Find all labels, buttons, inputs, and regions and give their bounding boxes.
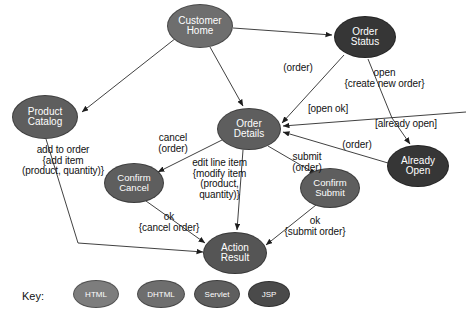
node-label: ConfirmSubmit [313, 178, 346, 197]
node-label-line2: Home [178, 26, 221, 36]
key-jsp[interactable]: JSP [248, 281, 290, 307]
key-servlet[interactable]: Servlet [194, 280, 240, 308]
node-product-catalog[interactable]: ProductCatalog [12, 95, 78, 139]
key-item-label: HTML [85, 290, 107, 299]
node-order-status[interactable]: OrderStatus [334, 16, 396, 58]
node-label-line2: Status [351, 37, 379, 47]
label-open-create: open {create new order} [322, 68, 447, 89]
node-label: CustomerHome [178, 16, 221, 36]
label-submit-order: submit (order) [278, 152, 336, 173]
node-label-line2: Open [401, 166, 435, 176]
node-label-line2: Submit [313, 188, 346, 198]
label-open-ok: [open ok] [293, 104, 363, 115]
node-label-line2: Result [221, 253, 249, 263]
label-ok-submit-order: ok {submit order} [268, 216, 362, 237]
label-order-right: (order) [327, 140, 387, 151]
key-item-label: JSP [262, 290, 277, 299]
label-edit-line-item: edit line item {modify item (product, qu… [167, 158, 272, 200]
node-label: ActionResult [221, 243, 249, 263]
label-already-open: [already open] [356, 119, 456, 130]
node-order-details[interactable]: OrderDetails [217, 108, 281, 150]
key-item-label: DHTML [147, 290, 175, 299]
navigation-state-diagram: CustomerHomeOrderStatusProductCatalogOrd… [0, 0, 466, 320]
label-ok-cancel-order: ok {cancel order} [124, 212, 214, 233]
edge-home-to-status [233, 28, 332, 35]
node-label-line2: Details [234, 129, 265, 139]
node-action-result[interactable]: ActionResult [203, 232, 267, 274]
node-customer-home[interactable]: CustomerHome [167, 4, 233, 48]
node-confirm-submit[interactable]: ConfirmSubmit [300, 168, 360, 208]
key-html[interactable]: HTML [73, 280, 119, 308]
node-label-line2: Cancel [117, 183, 150, 193]
node-already-open[interactable]: AlreadyOpen [387, 145, 449, 187]
label-add-to-order: add to order {add item (product, quantit… [2, 145, 124, 177]
edge-home-to-catalog [82, 38, 176, 112]
node-label: OrderStatus [351, 27, 379, 47]
label-order-top: (order) [268, 63, 328, 74]
edge-home-to-details [210, 47, 243, 106]
label-cancel-order: cancel (order) [144, 133, 202, 154]
node-label: AlreadyOpen [401, 156, 435, 176]
key-dhtml[interactable]: DHTML [137, 280, 185, 308]
key-item-label: Servlet [205, 290, 230, 299]
node-label-line2: Catalog [28, 117, 62, 127]
node-label: OrderDetails [234, 119, 265, 139]
node-label: ProductCatalog [28, 107, 62, 127]
key-title: Key: [22, 290, 44, 302]
